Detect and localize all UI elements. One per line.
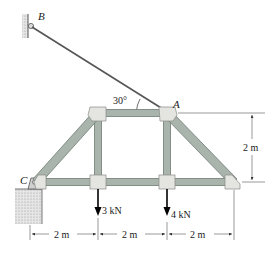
truss-members xyxy=(33,110,237,186)
svg-text:4 kN: 4 kN xyxy=(171,209,191,220)
wall-support-b xyxy=(22,14,34,38)
load-3kn: 3 kN xyxy=(95,189,122,216)
load-4kn: 4 kN xyxy=(164,189,191,220)
span-label-3: 2 m xyxy=(190,229,206,240)
point-c-label: C xyxy=(20,174,28,186)
height-label: 2 m xyxy=(243,142,259,153)
point-b-label: B xyxy=(38,10,45,22)
truss-diagram: 30° B A C 3 kN xyxy=(0,0,278,257)
angle-label: 30° xyxy=(113,95,127,106)
cable-ab xyxy=(32,27,166,111)
point-a-label: A xyxy=(172,98,180,110)
svg-text:3 kN: 3 kN xyxy=(102,205,122,216)
span-label-2: 2 m xyxy=(122,229,138,240)
span-label-1: 2 m xyxy=(54,229,70,240)
